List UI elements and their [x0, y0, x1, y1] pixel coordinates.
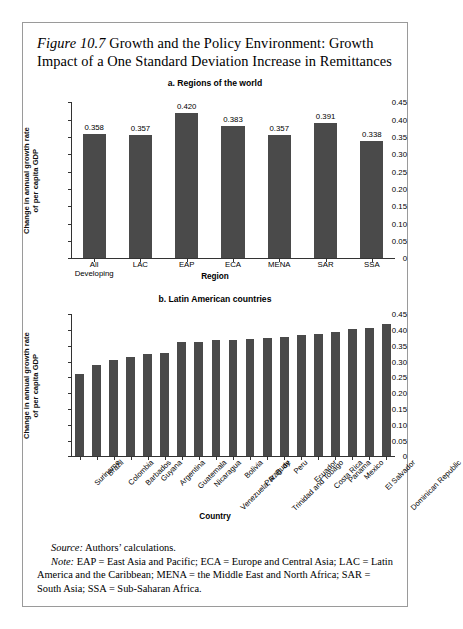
y-tick-mark	[68, 241, 71, 242]
x-category-label-line: SSA	[364, 260, 380, 269]
y-tick-mark	[68, 120, 71, 121]
bar	[263, 338, 272, 457]
y-tick-mark	[68, 172, 71, 173]
bar	[382, 324, 391, 456]
bar	[160, 353, 169, 456]
bar	[126, 357, 135, 456]
bar	[75, 374, 84, 457]
source-text: Authors’ calculations.	[85, 542, 176, 553]
y-tick-label: 0.45	[365, 98, 407, 107]
y-tick-mark	[68, 377, 71, 378]
y-axis-title-line: of per capita GDP	[32, 96, 41, 266]
bar	[280, 337, 289, 456]
x-category-label: ECA	[225, 260, 241, 269]
y-tick-mark	[68, 330, 71, 331]
bar	[212, 340, 221, 456]
bar	[129, 135, 152, 259]
x-category-label-line: LAC	[133, 260, 148, 269]
bar	[268, 135, 291, 259]
y-tick-mark	[68, 314, 71, 315]
bar	[365, 328, 374, 456]
x-category-label-line: MENA	[268, 260, 291, 269]
y-tick-mark	[68, 189, 71, 190]
panel-b-plot-area: 00.050.100.150.200.250.300.350.400.45Cha…	[23, 304, 407, 456]
x-category-label: SSA	[364, 260, 380, 269]
bar	[92, 365, 101, 456]
footnotes: Source: Authors’ calculations. Note: EAP…	[37, 541, 395, 596]
x-category-label: LAC	[133, 260, 148, 269]
bar	[143, 354, 152, 457]
bar-value-label: 0.391	[316, 112, 336, 121]
y-tick-mark	[68, 206, 71, 207]
y-tick-mark	[68, 362, 71, 363]
bar	[221, 126, 244, 259]
x-category-label-line: SAR	[318, 260, 334, 269]
bar-value-label: 0.338	[362, 130, 382, 139]
x-category-label-line: EAP	[179, 260, 195, 269]
y-tick-mark	[68, 441, 71, 442]
x-category-label: El Salvador	[384, 458, 418, 492]
y-tick-mark	[68, 425, 71, 426]
y-tick-mark	[68, 409, 71, 410]
y-tick-mark	[68, 137, 71, 138]
bar	[314, 334, 323, 456]
panel-a-title: a. Regions of the world	[23, 78, 407, 88]
bar	[194, 342, 203, 457]
y-tick-mark	[68, 154, 71, 155]
bar-value-label: 0.357	[131, 124, 151, 133]
y-axis-line	[71, 314, 72, 456]
x-category-label: Paraguay	[263, 458, 292, 487]
panel-b-x-axis-title: Country	[23, 512, 407, 521]
chart-panel-regions: a. Regions of the world 00.050.100.150.2…	[23, 78, 407, 288]
bar	[175, 113, 198, 259]
y-tick-label: 0.40	[365, 115, 407, 124]
chart-panel-countries: b. Latin American countries 00.050.100.1…	[23, 294, 407, 528]
bar	[177, 342, 186, 456]
x-category-label: Peru	[292, 458, 310, 476]
x-category-label-line: ECA	[225, 260, 241, 269]
bar	[109, 360, 118, 456]
x-category-label: EAP	[179, 260, 195, 269]
note-note: Note: EAP = East Asia and Pacific; ECA =…	[37, 555, 395, 596]
y-tick-mark	[68, 102, 71, 103]
figure-frame: Figure 10.7 Growth and the Policy Enviro…	[22, 22, 408, 607]
x-category-label: Dominican Republic	[409, 458, 463, 512]
bar-value-label: 0.383	[223, 115, 243, 124]
panel-b-title: b. Latin American countries	[23, 294, 407, 304]
figure-title: Figure 10.7 Growth and the Policy Enviro…	[23, 23, 407, 70]
note-label: Note:	[51, 556, 74, 567]
bar	[83, 134, 106, 258]
y-axis-title: Change in annual growth rateof per capit…	[23, 308, 40, 464]
y-tick-label: 0.45	[365, 310, 407, 319]
x-category-label: AllDeveloping	[75, 260, 114, 278]
x-category-label-line: Developing	[75, 269, 114, 278]
y-tick-mark	[68, 346, 71, 347]
y-axis-line	[71, 102, 72, 258]
figure-number: Figure 10.7	[37, 35, 106, 51]
bar	[246, 339, 255, 456]
bar	[229, 340, 238, 456]
bar-value-label: 0.358	[84, 123, 104, 132]
bar	[360, 141, 383, 258]
source-note: Source: Authors’ calculations.	[37, 541, 395, 555]
y-axis-title-line: of per capita GDP	[32, 308, 41, 464]
bar	[314, 123, 337, 259]
panel-a-plot-area: 00.050.100.150.200.250.300.350.400.45Cha…	[23, 88, 407, 258]
bar	[297, 335, 306, 456]
y-axis-title: Change in annual growth rateof per capit…	[23, 96, 40, 266]
bar	[348, 329, 357, 456]
bar	[331, 332, 340, 457]
x-category-label: MENA	[268, 260, 291, 269]
note-text: EAP = East Asia and Pacific; ECA = Europ…	[37, 556, 393, 595]
x-category-label: Bolivia	[243, 458, 265, 480]
x-category-label-line: All	[75, 260, 114, 269]
bar-value-label: 0.420	[177, 102, 197, 111]
x-category-label: SAR	[318, 260, 334, 269]
y-tick-mark	[68, 393, 71, 394]
y-tick-mark	[68, 224, 71, 225]
source-label: Source:	[51, 542, 83, 553]
bar-value-label: 0.357	[270, 124, 290, 133]
